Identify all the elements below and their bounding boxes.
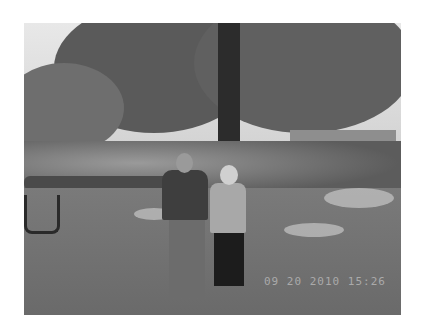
woman-torso — [210, 183, 246, 233]
man-head — [176, 153, 193, 173]
man-legs — [169, 218, 205, 298]
tree-trunk — [218, 23, 240, 143]
woman-head — [220, 165, 238, 185]
timestamp-overlay: 09 20 2010 15:26 — [264, 275, 386, 288]
sun-patch — [284, 223, 344, 237]
sun-patch — [324, 188, 394, 208]
chair — [24, 195, 60, 234]
photograph: 09 20 2010 15:26 — [24, 23, 401, 315]
man-torso — [162, 170, 208, 220]
woman-legs — [214, 231, 244, 286]
